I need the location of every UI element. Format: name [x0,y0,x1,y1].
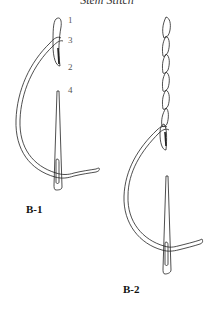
figure-label-b1: B-1 [26,203,43,215]
figure-b2-drawing [124,17,203,274]
step-number-4: 4 [68,85,73,95]
step-number-3: 3 [68,35,73,45]
step-number-2: 2 [68,62,73,72]
figure-label-b2: B-2 [123,283,140,295]
step-number-1: 1 [68,15,73,25]
figure-b1-drawing [16,18,99,190]
stem-stitch-illustration [0,0,214,309]
